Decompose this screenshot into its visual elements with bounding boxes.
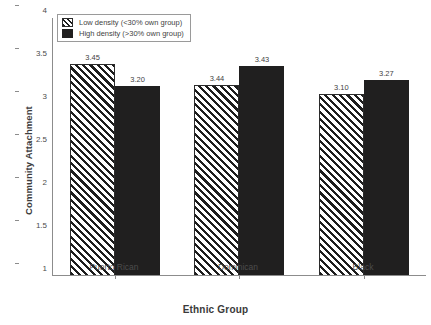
- x-axis-tick-label: Puerto Rican: [89, 262, 138, 272]
- y-axis-tick-mark: [15, 134, 19, 135]
- y-axis-tick-label: 4: [19, 5, 53, 17]
- legend-item-high-density: High density (>30% own group): [62, 29, 184, 38]
- bar-value-label: 3.45: [85, 53, 100, 62]
- x-axis-tick-mark: [115, 275, 116, 279]
- y-axis-tick-label: 3: [19, 91, 53, 103]
- legend: Low density (<30% own group) High densit…: [57, 14, 191, 42]
- bar-value-label: 3.27: [379, 69, 394, 78]
- y-axis-tick-mark: [15, 177, 19, 178]
- bar-value-label: 3.10: [334, 83, 349, 92]
- legend-label-high-density: High density (>30% own group): [79, 29, 184, 38]
- bar-value-label: 3.20: [130, 75, 145, 84]
- bar: 3.27: [364, 80, 409, 275]
- legend-label-low-density: Low density (<30% own group): [79, 18, 182, 27]
- bar-value-label: 3.44: [210, 74, 225, 83]
- y-axis-tick-mark: [15, 263, 19, 264]
- x-axis-title: Ethnic Group: [0, 304, 431, 315]
- y-axis-tick-mark: [15, 48, 19, 49]
- bar-chart: Community Attachment 11.522.533.54 3.453…: [0, 0, 431, 325]
- x-axis-tick-mark: [364, 275, 365, 279]
- legend-swatch-low-density-icon: [62, 18, 73, 27]
- y-axis-tick-label: 2.5: [19, 134, 53, 146]
- x-axis-tick-mark: [239, 275, 240, 279]
- y-axis-tick-label: 1: [19, 263, 53, 275]
- bar: 3.43: [239, 66, 284, 275]
- bar: 3.10: [319, 94, 364, 275]
- bar: 3.20: [115, 86, 160, 275]
- y-axis-tick-mark: [15, 91, 19, 92]
- x-axis-tick-label: Dominican: [218, 262, 258, 272]
- bar-value-label: 3.43: [255, 55, 270, 64]
- legend-swatch-high-density-icon: [62, 29, 73, 38]
- plot-area: 11.522.533.54 3.453.203.443.433.103.27: [52, 18, 426, 276]
- bar-group: 3.453.20: [53, 18, 177, 275]
- bar: 3.44: [194, 85, 239, 275]
- bar-group: 3.103.27: [302, 18, 426, 275]
- bar-groups: 3.453.203.443.433.103.27: [53, 18, 426, 275]
- bar: 3.45: [70, 64, 115, 275]
- y-axis-tick-mark: [15, 220, 19, 221]
- legend-item-low-density: Low density (<30% own group): [62, 18, 184, 27]
- y-axis-tick-label: 1.5: [19, 220, 53, 232]
- bar-group: 3.443.43: [177, 18, 301, 275]
- x-axis-tick-label: Black: [353, 262, 374, 272]
- y-axis-tick-label: 3.5: [19, 48, 53, 60]
- y-axis-tick-label: 2: [19, 177, 53, 189]
- y-axis-tick-mark: [15, 5, 19, 6]
